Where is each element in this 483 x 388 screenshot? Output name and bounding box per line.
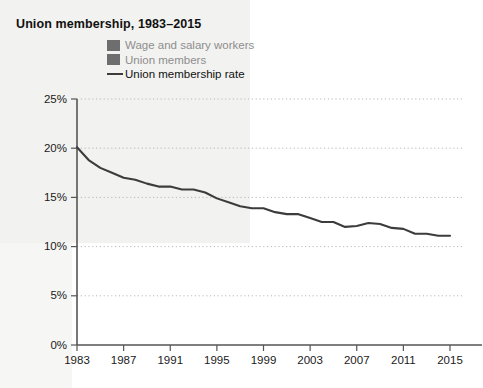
x-tick-label: 1983 [64, 354, 90, 366]
x-tick-label: 2011 [391, 354, 416, 366]
y-axis-ticks [71, 99, 77, 345]
y-tick-label: 5% [50, 289, 67, 301]
series-line-union-membership-rate [77, 147, 450, 236]
y-tick-label: 15% [44, 191, 67, 203]
y-tick-label: 0% [50, 339, 67, 351]
x-axis-labels: 198319871991199519992003200720112015 [64, 354, 463, 366]
y-tick-label: 20% [44, 142, 67, 154]
x-tick-label: 2015 [437, 354, 463, 366]
x-tick-label: 1999 [251, 354, 277, 366]
x-tick-label: 2003 [297, 354, 323, 366]
x-tick-label: 1995 [204, 354, 230, 366]
gridlines [77, 99, 462, 296]
plot-area: 0%5%10%15%20%25% 19831987199119951999200… [0, 0, 483, 388]
union-membership-chart: Union membership, 1983–2015 Wage and sal… [0, 0, 483, 388]
axis-lines [77, 99, 482, 345]
y-tick-label: 10% [44, 240, 67, 252]
x-tick-label: 1987 [111, 354, 137, 366]
data-series [77, 147, 450, 236]
y-axis-labels: 0%5%10%15%20%25% [44, 93, 67, 351]
y-tick-label: 25% [44, 93, 67, 105]
x-axis-ticks [77, 345, 450, 351]
x-tick-label: 1991 [157, 354, 183, 366]
x-tick-label: 2007 [344, 354, 370, 366]
